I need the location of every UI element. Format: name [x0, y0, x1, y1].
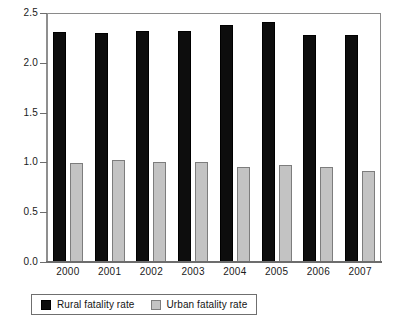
- bar-urban-2002: [153, 162, 166, 262]
- y-axis-tick: [40, 212, 47, 213]
- y-axis-tick: [40, 162, 47, 163]
- legend-item-urban[interactable]: Urban fatality rate: [151, 299, 248, 310]
- legend-label: Urban fatality rate: [167, 299, 248, 310]
- y-axis-tick-label: 0.5: [0, 207, 38, 217]
- bar-rural-2003: [178, 31, 191, 262]
- y-axis-tick-label: 1.0: [0, 157, 38, 167]
- y-axis-tick-label: 1.5: [0, 108, 38, 118]
- bar-urban-2003: [195, 162, 208, 262]
- bar-urban-2004: [237, 167, 250, 262]
- x-axis-tick-label: 2006: [298, 266, 338, 277]
- x-axis-tick-label: 2000: [48, 266, 88, 277]
- bar-group: [220, 13, 250, 262]
- bar-urban-2006: [320, 167, 333, 262]
- bar-group: [136, 13, 166, 262]
- bar-rural-2006: [303, 35, 316, 262]
- bar-rural-2007: [345, 35, 358, 262]
- y-axis-tick: [40, 113, 47, 114]
- chart-legend: Rural fatality rateUrban fatality rate: [31, 294, 257, 315]
- bars-layer: [47, 13, 381, 262]
- bar-group: [345, 13, 375, 262]
- bar-group: [95, 13, 125, 262]
- legend-swatch-icon: [41, 300, 51, 310]
- bar-rural-2000: [53, 32, 66, 262]
- bar-rural-2004: [220, 25, 233, 262]
- bar-rural-2005: [262, 22, 275, 262]
- y-axis-tick-label: 2.5: [0, 8, 38, 18]
- x-axis-line: [46, 261, 382, 263]
- legend-item-rural[interactable]: Rural fatality rate: [41, 299, 135, 310]
- y-axis-tick-label: 0.0: [0, 257, 38, 267]
- bar-group: [262, 13, 292, 262]
- x-axis-tick-label: 2004: [215, 266, 255, 277]
- y-axis-tick: [40, 13, 47, 14]
- y-axis-tick: [40, 63, 47, 64]
- bar-rural-2001: [95, 33, 108, 262]
- y-axis-labels: 0.00.51.01.52.02.5: [0, 0, 38, 327]
- y-axis-tick-label: 2.0: [0, 58, 38, 68]
- bar-urban-2000: [70, 163, 83, 262]
- x-axis-tick-label: 2007: [340, 266, 380, 277]
- x-axis-tick-label: 2005: [257, 266, 297, 277]
- bar-chart: 0.00.51.01.52.02.5 200020012002200320042…: [0, 0, 397, 327]
- bar-urban-2007: [362, 171, 375, 262]
- bar-group: [178, 13, 208, 262]
- x-axis-labels: 20002001200220032004200520062007: [47, 266, 381, 282]
- legend-label: Rural fatality rate: [57, 299, 135, 310]
- bar-rural-2002: [136, 31, 149, 262]
- legend-swatch-icon: [151, 300, 161, 310]
- x-axis-tick-label: 2001: [90, 266, 130, 277]
- bar-group: [53, 13, 83, 262]
- x-axis-tick-label: 2002: [131, 266, 171, 277]
- x-axis-tick-label: 2003: [173, 266, 213, 277]
- bar-group: [303, 13, 333, 262]
- bar-urban-2005: [279, 165, 292, 262]
- bar-urban-2001: [112, 160, 125, 262]
- y-axis-tick: [40, 262, 47, 263]
